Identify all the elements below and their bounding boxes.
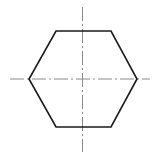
hexagon-drawing bbox=[0, 0, 156, 155]
